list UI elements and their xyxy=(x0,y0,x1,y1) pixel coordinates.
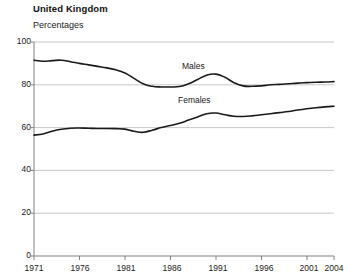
x-axis-ticks xyxy=(34,256,334,260)
y-axis-ticks xyxy=(30,42,34,256)
axes xyxy=(34,42,334,256)
series-line-males xyxy=(34,60,334,87)
series-line-females xyxy=(34,106,334,135)
